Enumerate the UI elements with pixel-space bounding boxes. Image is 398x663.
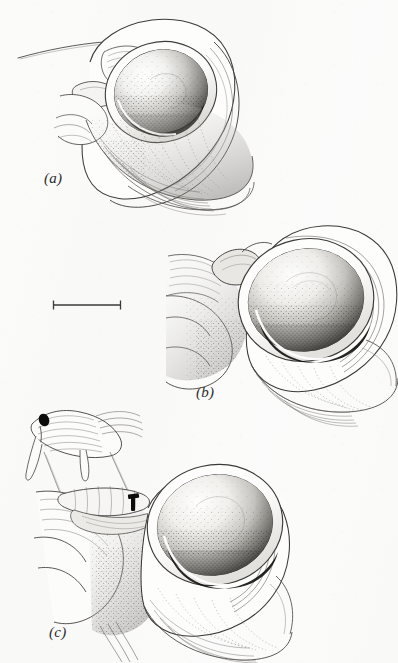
figure-label-c: (c)	[49, 624, 67, 641]
plate-artwork	[0, 0, 398, 663]
inset-stalk-c	[26, 436, 42, 480]
figure-label-a: (a)	[44, 170, 62, 187]
scale-bar	[53, 301, 121, 310]
leader-line-right-c	[110, 452, 128, 492]
illustration-plate: (a) (b) (c)	[0, 0, 398, 663]
inset-tentacle-detail-c	[26, 411, 143, 481]
figure-label-b: (b)	[196, 384, 214, 401]
